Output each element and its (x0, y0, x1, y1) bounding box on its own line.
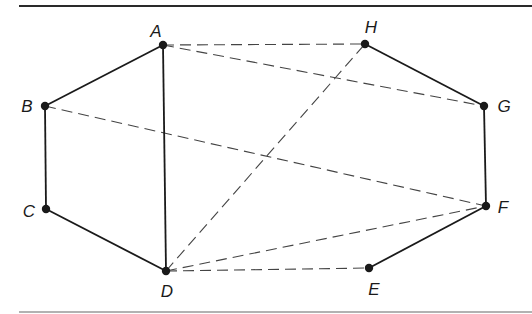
dashed-edge-bf (45, 106, 486, 206)
dashed-edges (45, 44, 486, 271)
octagon-graph-diagram: ABCDEFGH (0, 0, 532, 314)
vertex-label-g: G (497, 97, 510, 116)
vertex-dot-c (42, 205, 50, 213)
dashed-edge-de (166, 268, 369, 271)
vertex-label-e: E (368, 280, 380, 299)
vertex-label-a: A (149, 22, 161, 41)
vertex-dot-e (365, 264, 373, 272)
vertex-labels: ABCDEFGH (21, 18, 510, 301)
solid-edge-ab (45, 45, 163, 106)
vertex-dot-d (162, 267, 170, 275)
vertex-label-c: C (23, 202, 36, 221)
vertex-label-d: D (161, 282, 173, 301)
dashed-edge-ag (163, 45, 484, 106)
solid-edge-bc (45, 106, 46, 209)
solid-edge-gh (365, 44, 484, 106)
solid-edge-fg (484, 106, 486, 206)
dashed-edge-ah (163, 44, 365, 45)
vertex-dot-h (361, 40, 369, 48)
vertex-label-h: H (365, 18, 378, 37)
solid-edge-ad (163, 45, 166, 271)
vertex-dot-a (159, 41, 167, 49)
vertex-label-f: F (498, 198, 510, 217)
solid-edge-cd (46, 209, 166, 271)
vertex-dot-f (482, 202, 490, 210)
solid-edge-ef (369, 206, 486, 268)
vertex-label-b: B (21, 97, 32, 116)
vertex-dot-b (41, 102, 49, 110)
vertex-dot-g (480, 102, 488, 110)
solid-edges (45, 44, 486, 271)
